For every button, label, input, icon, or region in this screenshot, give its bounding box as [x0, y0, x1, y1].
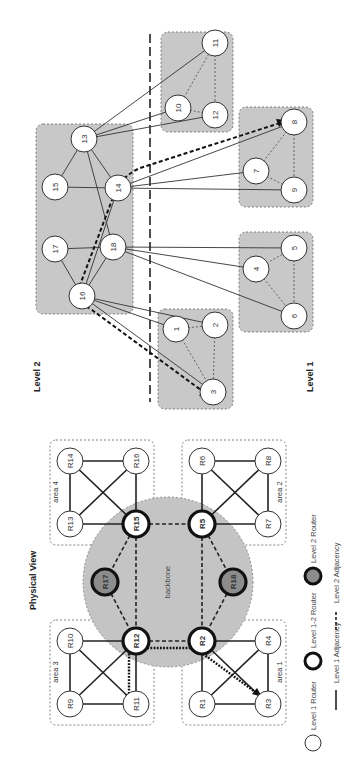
physical-view-title: Physical View — [28, 550, 38, 610]
l2-label-16: 16 — [78, 291, 87, 300]
legend-level2-router-icon — [305, 568, 321, 584]
area2-label: area 2 — [275, 481, 284, 502]
area4-label: area 4 — [51, 481, 60, 502]
backbone-label: backbone — [163, 566, 172, 599]
legend: Level 1 Router Level 1-2 Router Level 2 … — [305, 514, 341, 751]
router-label-r6: R6 — [198, 455, 207, 466]
l1-label-3: 3 — [209, 389, 218, 394]
legend-level1-router-label: Level 1 Router — [309, 681, 318, 730]
router-label-r17: R17 — [101, 574, 110, 589]
l1-label-12: 12 — [211, 110, 220, 119]
l1-label-5: 5 — [290, 245, 299, 250]
router-label-r4: R4 — [264, 635, 273, 646]
l1-label-2: 2 — [211, 322, 220, 327]
router-label-r3: R3 — [264, 698, 273, 709]
level1-label: Level 1 — [305, 361, 315, 392]
router-label-r10: R10 — [66, 633, 75, 648]
l1-label-6: 6 — [290, 313, 299, 318]
legend-level12-router-label: Level 1-2 Router — [309, 592, 318, 648]
router-label-r15: R15 — [132, 516, 141, 531]
l2-label-14: 14 — [114, 183, 123, 192]
l1-label-9: 9 — [290, 187, 299, 192]
l1-label-7: 7 — [252, 168, 261, 173]
legend-level12-router-icon — [305, 653, 321, 669]
legend-level2-adjacency-label: Level 2 Adjacency — [332, 542, 341, 603]
l2-label-15: 15 — [51, 182, 60, 191]
router-label-r13: R13 — [66, 516, 75, 531]
l1-label-1: 1 — [172, 326, 181, 331]
router-label-r7: R7 — [264, 518, 273, 529]
router-label-r18: R18 — [229, 574, 238, 589]
area1-label: area 1 — [275, 661, 284, 682]
l2-label-17: 17 — [51, 244, 60, 253]
l1-label-4: 4 — [252, 266, 261, 271]
router-label-r9: R9 — [66, 698, 75, 709]
router-label-r2: R2 — [198, 635, 207, 646]
router-label-r16: R16 — [132, 453, 141, 468]
router-label-r12: R12 — [132, 633, 141, 648]
l2-label-13: 13 — [80, 134, 89, 143]
l2-label-18: 18 — [109, 242, 118, 251]
area3-label: area 3 — [51, 661, 60, 682]
l1-label-10: 10 — [174, 103, 183, 112]
router-label-r1: R1 — [198, 698, 207, 709]
l1-label-11: 11 — [211, 38, 220, 47]
level2-label: Level 2 — [32, 361, 42, 392]
router-label-r11: R11 — [132, 696, 141, 711]
legend-level1-adjacency-label: Level 1 Adjacency — [332, 622, 341, 683]
legend-level2-router-label: Level 2 Router — [309, 514, 318, 563]
logical-view: 13 15 14 17 18 16 10 11 12 7 8 9 4 5 6 1… — [32, 30, 315, 409]
l1-label-8: 8 — [290, 119, 299, 124]
legend-level1-router-icon — [305, 735, 321, 751]
isis-diagram: 13 15 14 17 18 16 10 11 12 7 8 9 4 5 6 1… — [0, 0, 359, 770]
router-label-r5: R5 — [198, 518, 207, 529]
router-label-r8: R8 — [264, 455, 273, 466]
physical-view: Physical View backbone — [28, 440, 286, 725]
router-label-r14: R14 — [66, 453, 75, 468]
